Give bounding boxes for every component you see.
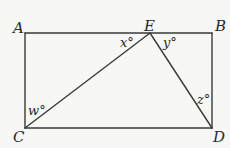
vertex-label-d: D (212, 128, 225, 146)
segment-ed (150, 33, 212, 128)
geometry-diagram: A E B C D x° y° w° z° (0, 0, 230, 148)
vertex-label-e: E (143, 17, 155, 35)
angle-label-y: y° (162, 35, 177, 50)
angle-label-w: w° (28, 103, 46, 118)
vertex-label-a: A (11, 19, 24, 37)
vertex-label-c: C (13, 128, 25, 146)
angle-label-x: x° (120, 35, 134, 50)
vertex-label-b: B (214, 17, 226, 35)
angle-label-z: z° (196, 92, 210, 107)
